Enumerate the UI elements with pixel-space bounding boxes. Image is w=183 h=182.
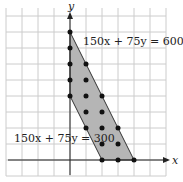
chart: x y 150x + 75y = 600 150x + 75y = 300: [0, 0, 183, 182]
x-axis-label: x: [172, 154, 179, 167]
line-label-300: 150x + 75y = 300: [14, 132, 115, 145]
line-label-600: 150x + 75y = 600: [83, 35, 183, 48]
y-axis-label: y: [67, 0, 75, 13]
